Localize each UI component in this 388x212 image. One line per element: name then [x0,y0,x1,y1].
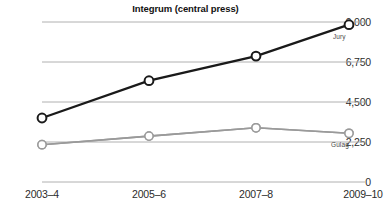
jury-point-2003-4 [38,114,47,123]
jury-point-2005-6 [145,76,154,85]
gulag-marker-2003-4 [38,141,46,149]
gulag-marker-2007-8 [252,124,260,132]
gulag-marker-2009-10 [345,129,353,137]
jury-point-2007-8 [252,52,261,61]
series-label-gulag: Gulag [331,141,349,148]
series-label-jury: Jury [333,33,346,40]
jury-line [42,25,349,118]
jury-point-2009-10 [345,20,354,29]
series-gulag-line-fix [38,124,353,149]
series-gulag [38,124,353,149]
series-jury [38,20,354,122]
gulag-marker-2005-6 [145,132,153,140]
